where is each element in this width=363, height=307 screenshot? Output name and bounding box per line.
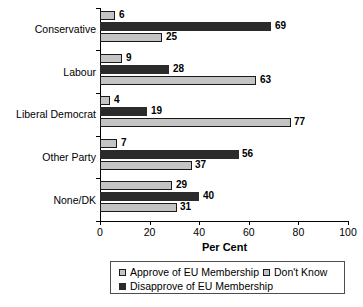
- x-tick-label: 20: [144, 226, 156, 239]
- bar-dont-know: [100, 181, 172, 190]
- bar-disapprove: [100, 107, 147, 116]
- bar-value-dont-know: 9: [126, 51, 132, 65]
- bar-value-dont-know: 6: [119, 8, 125, 22]
- bar-value-disapprove: 69: [275, 19, 286, 33]
- plot-area: 6 69 25 9 28 63: [100, 8, 348, 221]
- legend-swatch-dont-know-icon: [263, 269, 270, 276]
- bar-approve: [100, 203, 177, 212]
- bar-value-dont-know: 29: [176, 178, 187, 192]
- bar-dont-know: [100, 96, 110, 105]
- x-tick-label: 40: [193, 226, 205, 239]
- bar-disapprove: [100, 22, 271, 31]
- bar-dont-know: [100, 11, 115, 20]
- bar-value-approve: 31: [180, 200, 191, 214]
- x-tick-mark: [150, 221, 151, 225]
- legend: Approve of EU Membership Don't Know Disa…: [110, 261, 345, 294]
- bar-dont-know: [100, 139, 117, 148]
- x-tick-mark: [100, 221, 101, 225]
- bar-approve: [100, 118, 291, 127]
- bar-value-disapprove: 56: [242, 147, 253, 161]
- bar-value-disapprove: 40: [203, 189, 214, 203]
- x-tick-label: 60: [243, 226, 255, 239]
- bar-group-conservative: 6 69 25: [100, 8, 348, 51]
- category-label-labour: Labour: [0, 66, 96, 78]
- legend-swatch-disapprove-icon: [119, 283, 126, 290]
- legend-label-disapprove: Disapprove of EU Membership: [130, 280, 273, 292]
- category-axis-labels: Conservative Labour Liberal Democrat Oth…: [0, 8, 96, 221]
- bar-approve: [100, 76, 256, 85]
- bar-approve: [100, 33, 162, 42]
- x-tick-label: 0: [97, 226, 103, 239]
- legend-swatch-approve-icon: [119, 269, 126, 276]
- bar-disapprove: [100, 65, 169, 74]
- category-label-other-party: Other Party: [0, 151, 96, 163]
- bar-dont-know: [100, 54, 122, 63]
- bar-value-approve: 37: [195, 158, 206, 172]
- legend-item-approve: Approve of EU Membership: [119, 266, 259, 278]
- bar-approve: [100, 161, 192, 170]
- bar-value-approve: 63: [260, 73, 271, 87]
- bar-value-dont-know: 4: [114, 93, 120, 107]
- bar-disapprove: [100, 150, 239, 159]
- bar-value-disapprove: 28: [173, 62, 184, 76]
- x-tick-mark: [249, 221, 250, 225]
- legend-item-disapprove: Disapprove of EU Membership: [119, 280, 273, 292]
- x-axis-title: Per Cent: [100, 240, 349, 254]
- bar-value-disapprove: 19: [151, 104, 162, 118]
- x-axis-line: [100, 221, 349, 222]
- bar-value-approve: 77: [294, 115, 305, 129]
- x-tick-mark: [298, 221, 299, 225]
- bar-group-other-party: 7 56 37: [100, 136, 348, 179]
- category-label-conservative: Conservative: [0, 23, 96, 35]
- category-label-liberal-democrat: Liberal Democrat: [0, 108, 96, 120]
- legend-item-dont-know: Don't Know: [263, 266, 327, 278]
- x-tick-mark: [199, 221, 200, 225]
- bar-group-none-dk: 29 40 31: [100, 178, 348, 221]
- bar-value-approve: 25: [166, 30, 177, 44]
- bar-group-labour: 9 28 63: [100, 51, 348, 94]
- x-tick-mark: [348, 221, 349, 225]
- category-label-none-dk: None/DK: [0, 194, 96, 206]
- legend-label-dont-know: Don't Know: [274, 266, 327, 278]
- x-tick-label: 80: [293, 226, 305, 239]
- bar-group-liberal-democrat: 4 19 77: [100, 93, 348, 136]
- bar-chart: Conservative Labour Liberal Democrat Oth…: [0, 0, 363, 307]
- legend-label-approve: Approve of EU Membership: [130, 266, 259, 278]
- bar-value-dont-know: 7: [121, 136, 127, 150]
- x-tick-label: 100: [339, 226, 357, 239]
